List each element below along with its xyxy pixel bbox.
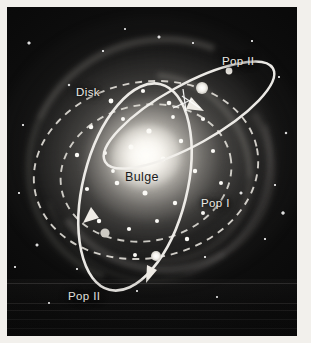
star-field (14, 28, 288, 305)
galaxy-population-figure: Pop II Disk Bulge Pop I Pop II (0, 0, 311, 343)
label-bulge: Bulge (125, 170, 159, 184)
orbit-direction-arrows (83, 97, 204, 283)
label-pop-ii-top: Pop II (222, 55, 254, 67)
label-disk: Disk (76, 86, 100, 98)
image-plate: Pop II Disk Bulge Pop I Pop II (7, 7, 297, 336)
label-pop-ii-bottom: Pop II (68, 290, 100, 302)
globular-cluster-markers (100, 68, 232, 261)
label-pop-i: Pop I (201, 197, 230, 209)
night-sky-background: Pop II Disk Bulge Pop I Pop II (7, 7, 297, 336)
